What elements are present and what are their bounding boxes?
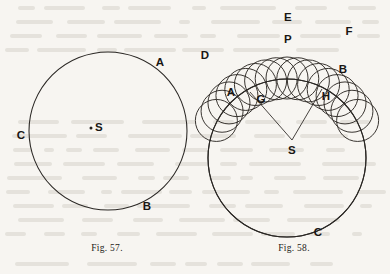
fig-57-label-a: A (156, 57, 165, 69)
fig58-rolling-circle (216, 75, 258, 117)
fig58-main-circle-overlay (208, 79, 366, 237)
fig-58-label-e: E (284, 12, 292, 24)
fig-57-label-c: C (17, 130, 26, 142)
fig58-rolling-circle (266, 57, 308, 99)
fig-57-drawing (29, 52, 187, 210)
fig-58-label-p: P (284, 34, 292, 46)
fig-57-caption: Fig. 57. (91, 243, 123, 253)
fig-58-label-a: A (227, 87, 236, 99)
fig-58-label-g: G (256, 94, 265, 106)
fig58-rolling-circle (324, 82, 366, 124)
fig-58-label-b: B (339, 64, 348, 76)
fig58-main-circle (208, 79, 366, 237)
fig-58-label-c: C (314, 227, 323, 239)
fig57-main-circle (29, 52, 187, 210)
fig-58-label-f: F (345, 26, 352, 38)
fig-58-label-d: D (201, 50, 210, 62)
fig-58-label-s: S (288, 145, 296, 157)
fig-58-label-h: H (322, 91, 331, 103)
fig58-rolling-circle (337, 99, 379, 141)
fig-58-drawing (195, 57, 378, 237)
fig-57-label-s: S (95, 122, 103, 134)
fig-57-label-b: B (143, 201, 152, 213)
fig-58-caption: Fig. 58. (278, 243, 310, 253)
figure-plate: ABCSFig. 57.DEFPABGHCSFig. 58. (0, 0, 390, 274)
fig57-centre-dot (90, 127, 93, 130)
figures-svg (0, 0, 390, 274)
